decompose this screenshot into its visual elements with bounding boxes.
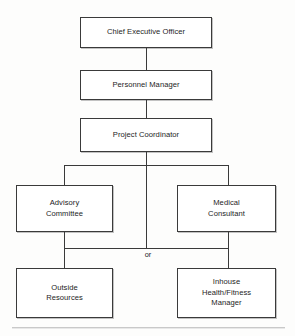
node-advisory-committee[interactable]: Advisory Committee <box>16 185 113 232</box>
node-label-inhouse-health-fitness-manager: Inhouse Health/Fitness Manager <box>199 277 254 309</box>
connector-project-coordinator-stem <box>146 152 147 165</box>
connector-or-bar <box>64 248 229 249</box>
node-label-outside-resources: Outside Resources <box>43 283 86 304</box>
node-label-advisory-committee: Advisory Committee <box>43 198 86 219</box>
connector-central-spine-to-or-bar <box>146 165 147 248</box>
connector-medical-consultant-to-inhouse-manager <box>228 232 229 268</box>
node-label-personnel-manager: Personnel Manager <box>109 80 182 91</box>
node-medical-consultant[interactable]: Medical Consultant <box>177 185 276 232</box>
connector-branch-leg-advisory-committee <box>64 165 65 185</box>
connector-branch-leg-medical-consultant <box>228 165 229 185</box>
node-label-chief-executive-officer: Chief Executive Officer <box>104 27 188 38</box>
connector-personnel-manager-to-project-coordinator <box>146 100 147 118</box>
connector-ceo-to-personnel-manager <box>146 48 147 70</box>
node-outside-resources[interactable]: Outside Resources <box>16 268 113 318</box>
org-chart-diagram: Chief Executive Officer Personnel Manage… <box>0 0 295 336</box>
node-chief-executive-officer[interactable]: Chief Executive Officer <box>80 17 212 48</box>
node-label-medical-consultant: Medical Consultant <box>205 198 248 219</box>
connector-or-label: or <box>136 250 160 259</box>
node-label-project-coordinator: Project Coordinator <box>110 130 182 141</box>
connector-advisory-committee-to-outside-resources <box>64 232 65 268</box>
node-inhouse-health-fitness-manager[interactable]: Inhouse Health/Fitness Manager <box>177 268 276 318</box>
node-personnel-manager[interactable]: Personnel Manager <box>80 70 212 100</box>
node-project-coordinator[interactable]: Project Coordinator <box>80 118 212 152</box>
footer-separator-rule <box>12 327 285 328</box>
